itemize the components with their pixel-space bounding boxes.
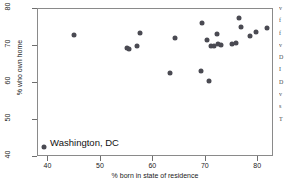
x-tick-label: 80 (245, 162, 269, 169)
data-point (233, 40, 238, 45)
y-tick-mark (32, 119, 37, 120)
margin-text-line: s (279, 100, 293, 112)
margin-text-line: D (279, 51, 293, 63)
y-tick-label: 80 (4, 0, 11, 27)
margin-text-line: v (279, 2, 293, 14)
data-point (199, 20, 204, 25)
x-tick-label: 50 (88, 162, 112, 169)
margin-text-line: D (279, 76, 293, 88)
chart-figure: 4050607080 4050607080 % who own home % b… (0, 0, 293, 187)
data-point (137, 31, 142, 36)
margin-text-line: f (279, 14, 293, 26)
x-tick-label: 60 (140, 162, 164, 169)
x-tick-mark (100, 156, 101, 161)
y-tick-mark (32, 8, 37, 9)
y-tick-label: 50 (4, 98, 11, 138)
y-tick-mark (32, 45, 37, 46)
data-point (42, 145, 47, 150)
margin-text-line: I (279, 63, 293, 75)
data-point (134, 43, 139, 48)
x-tick-mark (205, 156, 206, 161)
data-point (237, 15, 242, 20)
data-point (214, 31, 219, 36)
scatter-plot-area (37, 8, 273, 156)
data-point (71, 33, 76, 38)
y-tick-label: 40 (4, 135, 11, 175)
x-tick-mark (152, 156, 153, 161)
data-point (205, 37, 210, 42)
data-point (172, 36, 177, 41)
data-point (264, 26, 269, 31)
data-point (168, 71, 173, 76)
y-tick-mark (32, 82, 37, 83)
x-tick-label: 40 (35, 162, 59, 169)
margin-text-line: v (279, 39, 293, 51)
data-point (198, 68, 203, 73)
x-tick-mark (257, 156, 258, 161)
x-tick-label: 70 (193, 162, 217, 169)
data-point (207, 78, 212, 83)
margin-text-line: f (279, 27, 293, 39)
x-tick-mark (47, 156, 48, 161)
margin-text-line: T (279, 113, 293, 125)
margin-text-line: v (279, 88, 293, 100)
data-point (253, 30, 258, 35)
page-margin-text: vffvDIDvsT (279, 2, 293, 125)
data-point (218, 42, 223, 47)
y-tick-label: 70 (4, 24, 11, 64)
y-tick-mark (32, 156, 37, 157)
y-tick-label: 60 (4, 61, 11, 101)
y-axis-label: % who own home (16, 23, 23, 113)
data-point (247, 33, 252, 38)
annotation-washington-dc: Washington, DC (50, 137, 119, 148)
data-point (239, 25, 244, 30)
x-axis-label: % born in state of residence (37, 172, 273, 179)
data-point (126, 46, 131, 51)
